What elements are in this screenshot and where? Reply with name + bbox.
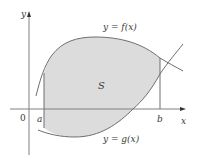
y-axis-arrow-icon	[27, 11, 31, 17]
bound-a-label: a	[37, 114, 42, 124]
origin-label: 0	[20, 113, 26, 123]
x-axis-arrow-icon	[180, 107, 186, 111]
diagram-canvas: y x 0 a b S y = f(x) y = g(x)	[0, 0, 201, 165]
area-between-curves-figure: y x 0 a b S y = f(x) y = g(x)	[0, 0, 201, 165]
curve-g-label: y = g(x)	[102, 134, 140, 144]
x-axis-label: x	[181, 116, 186, 126]
bound-b-label: b	[157, 114, 163, 124]
region-s-label: S	[98, 80, 105, 91]
y-axis-label: y	[20, 9, 27, 19]
curve-f-label: y = f(x)	[102, 22, 137, 32]
